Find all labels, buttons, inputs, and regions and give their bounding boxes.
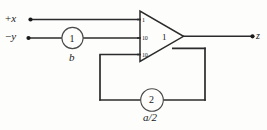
input-y-var: y: [11, 30, 16, 42]
amplifier-gain-label: 1: [162, 33, 167, 42]
amp-pin-label-3: 10: [142, 52, 147, 58]
input-x-var: x: [11, 12, 16, 24]
input-resistor-label: b: [69, 52, 75, 63]
feedback-resistor-label: a/2: [143, 112, 157, 123]
terminal-dot-y: [26, 36, 30, 40]
output-label-z: z: [256, 31, 260, 41]
terminal-dot-z: [250, 34, 254, 38]
feedback-resistor-value: 2: [149, 95, 154, 105]
terminal-dot-x: [28, 17, 32, 21]
input-label-y: −y: [5, 31, 16, 42]
amp-pin-label-1: 1: [142, 17, 145, 23]
input-label-x: +x: [5, 13, 16, 24]
amp-pin-label-2: 10: [142, 35, 147, 41]
circuit-diagram-canvas: +x −y 1 b 1 10 10 1 z 2 a/2: [0, 0, 267, 130]
circuit-schematic-svg: [0, 0, 267, 130]
input-resistor-value: 1: [70, 34, 75, 44]
